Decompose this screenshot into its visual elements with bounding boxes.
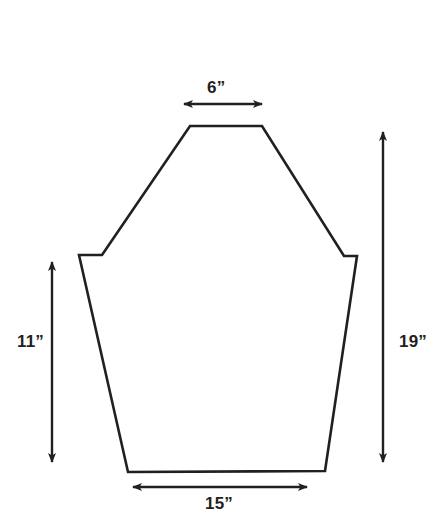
dimension-label-bottom: 15”: [205, 495, 233, 512]
polygon-outline: [79, 126, 357, 472]
dimension-label-left: 11”: [17, 333, 44, 350]
dimension-label-top: 6”: [207, 79, 225, 96]
geometry-figure: 6” 11” 19” 15”: [0, 0, 448, 526]
dimension-label-right: 19”: [399, 333, 427, 350]
